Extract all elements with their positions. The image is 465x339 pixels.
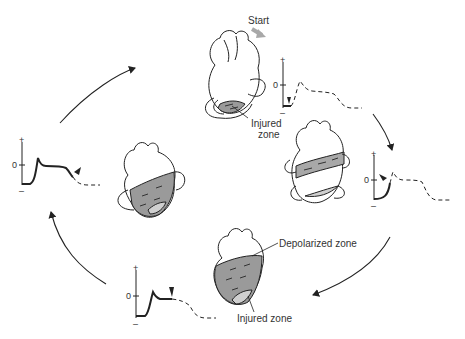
ecg-trace-right — [371, 155, 452, 200]
axis-plus-bottom: + — [133, 264, 138, 273]
axis-plus-right: + — [371, 150, 376, 159]
heart-top-icon — [205, 31, 265, 119]
axis-zero-left: 0 — [12, 161, 17, 170]
ecg-trace-top — [280, 62, 362, 108]
heart-left-icon — [118, 143, 185, 218]
start-arrow-icon — [252, 29, 266, 38]
axis-zero-top: 0 — [273, 81, 278, 90]
ecg-trace-bottom — [133, 270, 216, 318]
axis-minus-top: – — [280, 109, 285, 118]
ecg-trace-left — [19, 142, 100, 185]
cycle-arrow-top-left-icon — [60, 68, 135, 123]
axis-minus-bottom: – — [133, 320, 138, 329]
cycle-arrow-bottom-left-icon — [51, 212, 106, 284]
start-label: Start — [248, 15, 269, 26]
injured-zone-top-label-line1: Injured — [251, 118, 282, 129]
heart-right-icon — [285, 121, 350, 203]
injury-current-diagram: Start Injured zone Depolarized zone Inju… — [0, 0, 465, 339]
axis-plus-top: + — [280, 56, 285, 65]
heart-bottom-icon — [214, 229, 264, 305]
cycle-arrow-top-right-icon — [373, 114, 392, 150]
axis-minus-left: – — [19, 187, 24, 196]
diagram-canvas — [0, 0, 465, 339]
depolarized-zone-label: Depolarized zone — [279, 238, 357, 249]
axis-minus-right: – — [371, 202, 376, 211]
injured-zone-bottom-label: Injured zone — [237, 313, 292, 324]
axis-zero-bottom: 0 — [126, 292, 131, 301]
axis-zero-right: 0 — [364, 176, 369, 185]
injured-zone-top-label-line2: zone — [258, 129, 280, 140]
axis-plus-left: + — [19, 136, 24, 145]
